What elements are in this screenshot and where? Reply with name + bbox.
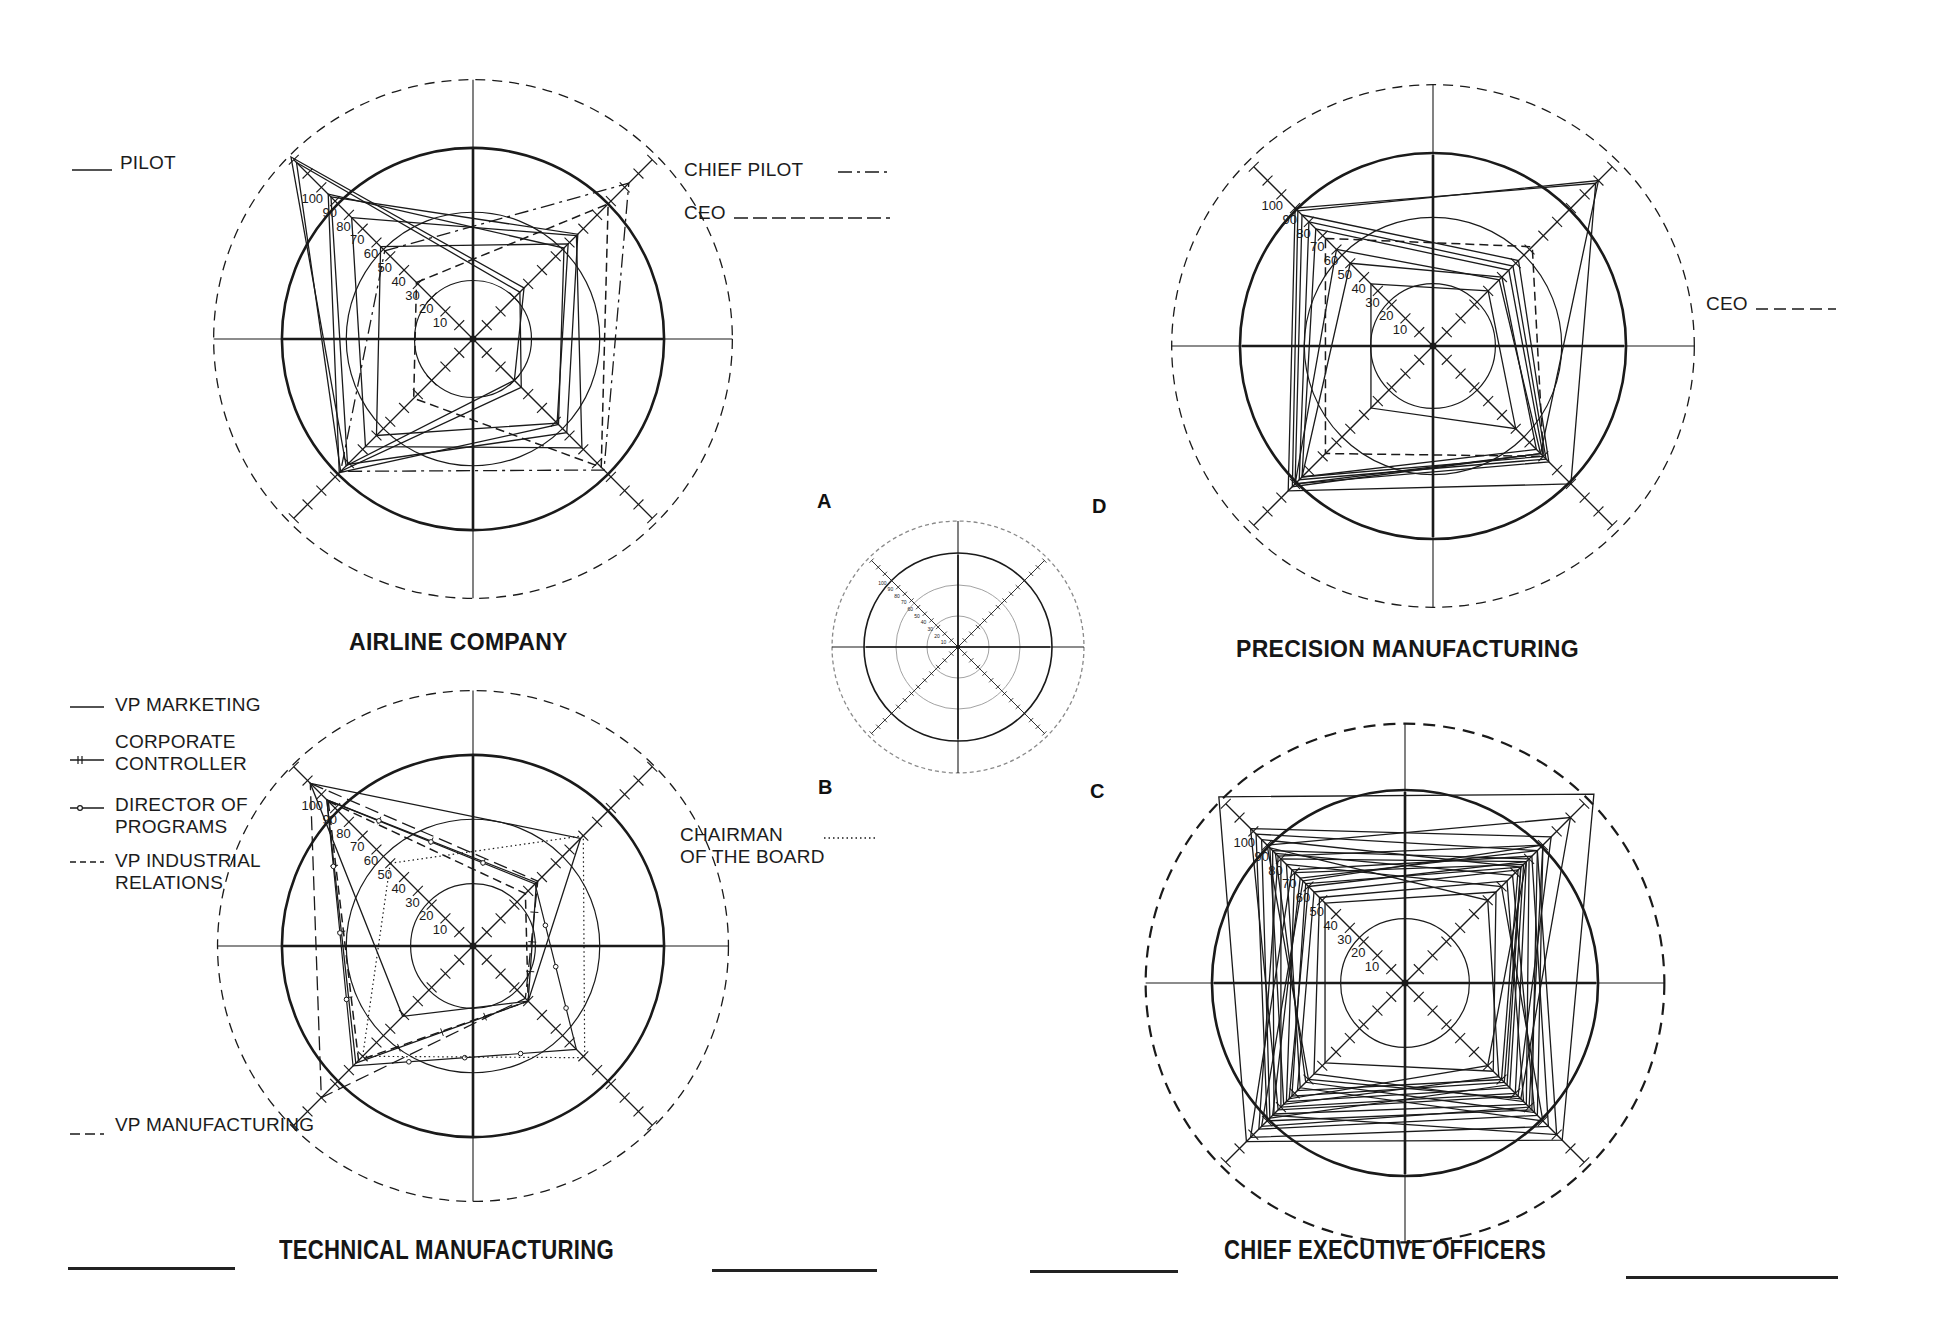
panel-letter-c: C — [1090, 780, 1104, 803]
diagonal-axis-sw — [1254, 346, 1433, 525]
axis-tick-label: 60 — [364, 853, 378, 868]
center-point — [470, 943, 477, 950]
axis-tick-label: 30 — [927, 626, 933, 632]
series-marker-dot — [553, 964, 558, 969]
axis-tick-label: 20 — [1351, 945, 1365, 960]
axis-tick-label: 20 — [934, 633, 940, 639]
axis-tick-label: 30 — [1365, 295, 1379, 310]
series-marker-dot — [377, 819, 382, 824]
series-marker-dot — [481, 861, 486, 866]
legend-label-chairman: CHAIRMAN — [680, 824, 783, 846]
panel-letter-a: A — [817, 490, 831, 513]
panel-letter-b: B — [818, 776, 832, 799]
diagonal-axis-ne — [958, 561, 1044, 647]
series-marker-tick — [528, 942, 536, 943]
radar-chart-ceos: 102030405060708090100 — [1146, 724, 1665, 1243]
diagonal-axis-nw — [872, 561, 958, 647]
series-marker-dot — [518, 1051, 523, 1056]
axis-tick-label: 100 — [1261, 198, 1283, 213]
title-airline-company: AIRLINE COMPANY — [349, 629, 568, 656]
series-marker-dot — [462, 1055, 467, 1060]
axis-tick-label: 20 — [419, 301, 433, 316]
series-marker-dot — [564, 1006, 569, 1011]
center-point — [470, 336, 477, 343]
diagonal-axis-nw — [1254, 167, 1433, 346]
center-point — [1430, 343, 1437, 350]
axis-tick-label: 10 — [1365, 959, 1379, 974]
diagonal-axis-se — [473, 339, 652, 518]
diagonal-axis-se — [958, 647, 1044, 733]
center-point — [1402, 980, 1409, 987]
axis-tick-label: 30 — [405, 288, 419, 303]
axis-tick-label: 70 — [350, 839, 364, 854]
axis-tick-label: 60 — [364, 246, 378, 261]
axis-tick-label: 40 — [391, 881, 405, 896]
legend-label-director-of: DIRECTOR OF — [115, 794, 248, 816]
series-marker-tick — [530, 912, 538, 913]
legend-key-corporate-controller — [70, 756, 104, 764]
series-marker-dot — [338, 931, 343, 936]
legend-label-programs: PROGRAMS — [115, 816, 227, 838]
axis-tick-label: 100 — [301, 191, 323, 206]
panel-letter-d: D — [1092, 495, 1106, 518]
axis-tick-label: 10 — [941, 639, 947, 645]
axis-tick-label: 70 — [901, 599, 907, 605]
series-polygon-ceo — [1314, 881, 1524, 1102]
axis-tick-label: 30 — [405, 895, 419, 910]
title-rule-left-technical — [68, 1267, 235, 1270]
axis-tick-label: 60 — [908, 606, 914, 612]
legend-label-pilot: PILOT — [120, 152, 176, 174]
series-polygon-pilot — [291, 157, 524, 466]
diagonal-axis-sw — [294, 946, 473, 1125]
title-rule-right-ceos — [1626, 1276, 1838, 1279]
axis-tick-label: 20 — [419, 908, 433, 923]
legend-label-ceo-airline: CEO — [684, 202, 726, 224]
radar-chart-key: 102030405060708090100 — [832, 521, 1084, 773]
legend-label-ceo-precision: CEO — [1706, 293, 1748, 315]
legend-label-corporate: CORPORATE — [115, 731, 236, 753]
title-rule-left-ceos — [1030, 1270, 1178, 1273]
center-point — [956, 645, 960, 649]
axis-tick-label: 40 — [391, 274, 405, 289]
legend-key-director-programs — [70, 806, 104, 811]
axis-tick-label: 50 — [378, 867, 392, 882]
series-marker-dot — [344, 997, 349, 1002]
radar-chart-precision: 102030405060708090100 — [1172, 85, 1695, 608]
diagonal-axis-ne — [473, 767, 652, 946]
legend-label-vp-marketing: VP MARKETING — [115, 694, 261, 716]
axis-tick-label: 50 — [1338, 267, 1352, 282]
series-marker-dot — [543, 923, 548, 928]
axis-tick-label: 80 — [894, 593, 900, 599]
axis-tick-label: 50 — [914, 613, 920, 619]
title-chief-executive-officers: CHIEF EXECUTIVE OFFICERS — [1224, 1235, 1546, 1266]
title-rule-right-technical — [712, 1269, 877, 1272]
series-marker-dot — [429, 840, 434, 845]
series-polygon-manager — [1302, 263, 1536, 477]
axis-tick-label: 100 — [301, 798, 323, 813]
legend-label-controller: CONTROLLER — [115, 753, 247, 775]
diagonal-axis-se — [473, 946, 652, 1125]
axis-tick-label: 40 — [921, 619, 927, 625]
title-precision-manufacturing: PRECISION MANUFACTURING — [1236, 636, 1579, 663]
series-marker-dot — [407, 1060, 412, 1065]
diagonal-axis-sw — [872, 647, 958, 733]
legend-label-chief-pilot: CHIEF PILOT — [684, 159, 803, 181]
legend-label-relations: RELATIONS — [115, 872, 223, 894]
radar-chart-airline: 102030405060708090100 — [214, 80, 733, 599]
axis-tick-label: 70 — [1310, 239, 1324, 254]
legend-label-of-the-board: OF THE BOARD — [680, 846, 825, 868]
figure-canvas: 102030405060708090100 102030405060708090… — [0, 0, 1947, 1338]
legend-label-vp-industrial: VP INDUSTRIAL — [115, 850, 261, 872]
diagonal-axis-sw — [294, 339, 473, 518]
axis-tick-label: 80 — [336, 219, 350, 234]
axis-tick-label: 10 — [433, 315, 447, 330]
legend-label-vp-manufacturing: VP MANUFACTURING — [115, 1114, 314, 1136]
axis-tick-label: 20 — [1379, 308, 1393, 323]
axis-tick-label: 80 — [336, 826, 350, 841]
axis-tick-label: 10 — [1393, 322, 1407, 337]
diagonal-axis-se — [1433, 346, 1612, 525]
axis-tick-label: 30 — [1337, 932, 1351, 947]
title-technical-manufacturing: TECHNICAL MANUFACTURING — [279, 1235, 614, 1266]
axis-tick-label: 90 — [888, 586, 894, 592]
axis-tick-label: 10 — [433, 922, 447, 937]
